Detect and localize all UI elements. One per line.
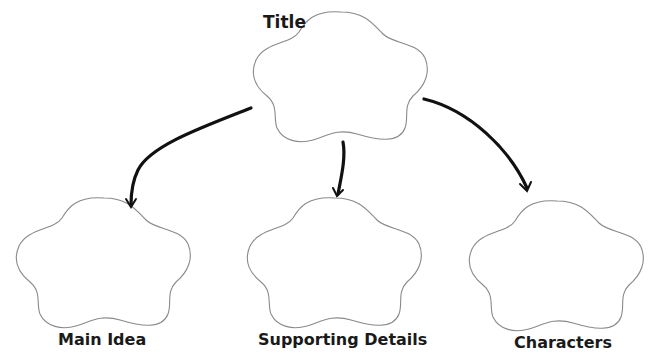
diagram-svg <box>0 0 656 360</box>
cloud-characters[interactable] <box>469 201 643 331</box>
title-label: Title <box>263 12 306 32</box>
arrow-to-supporting-details <box>333 142 344 196</box>
characters-label: Characters <box>514 333 612 352</box>
supporting-details-label: Supporting Details <box>258 330 427 349</box>
cloud-main-idea[interactable] <box>16 198 190 328</box>
arrow-to-main-idea <box>126 108 251 207</box>
diagram-canvas: Title Main Idea Supporting Details Chara… <box>0 0 656 360</box>
arrow-to-characters <box>424 99 531 191</box>
main-idea-label: Main Idea <box>58 330 146 349</box>
cloud-supporting-details[interactable] <box>247 198 421 328</box>
